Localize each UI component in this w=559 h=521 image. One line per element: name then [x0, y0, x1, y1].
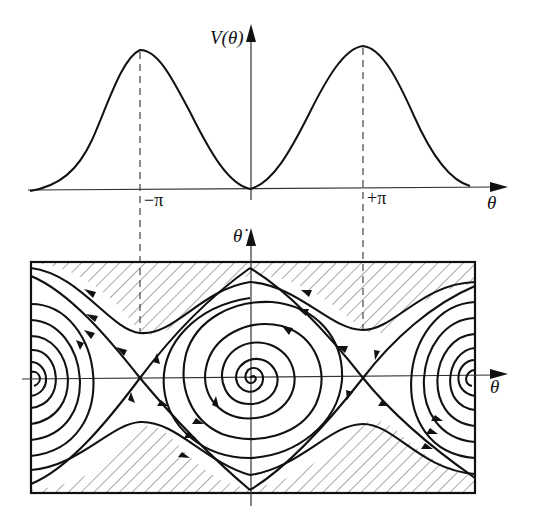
- v-axis-label: V(θ): [210, 27, 244, 49]
- theta-dot-axis-arrowhead-icon: [246, 228, 256, 246]
- theta-dot-axis-label: θ̇: [233, 225, 248, 246]
- phase-portrait: θ̇ θ: [22, 225, 508, 506]
- pendulum-potential-and-phase-portrait: V(θ) θ −π +π θ̇ θ: [0, 0, 559, 521]
- theta-axis-arrowhead-icon: [490, 182, 508, 192]
- tick-label-plus-pi: +π: [367, 188, 386, 208]
- tick-label-minus-pi: −π: [144, 190, 163, 210]
- theta-axis-label-bottom: θ: [490, 376, 499, 397]
- theta-axis-top: [28, 187, 497, 190]
- potential-curve: [30, 46, 470, 191]
- theta-axis-label-top: θ: [487, 192, 496, 213]
- v-axis-arrowhead-icon: [246, 24, 256, 42]
